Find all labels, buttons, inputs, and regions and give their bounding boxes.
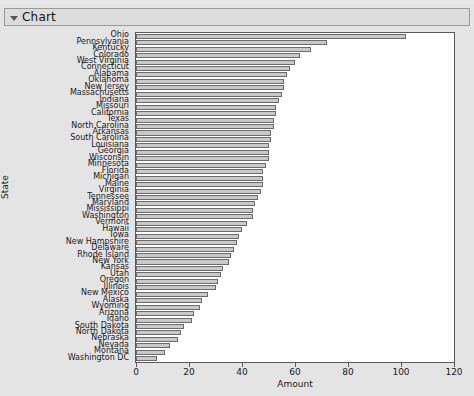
- bar-row: [136, 92, 454, 97]
- bar[interactable]: [136, 105, 276, 110]
- bar[interactable]: [136, 182, 263, 187]
- bar[interactable]: [136, 324, 184, 329]
- bar[interactable]: [136, 163, 266, 168]
- bar-row: [136, 292, 454, 297]
- y-axis-tick-label: Washington DC: [68, 354, 129, 362]
- bar[interactable]: [136, 47, 311, 52]
- chart-window-screen: Chart State OhioPennsylvaniaKentuckyColo…: [0, 0, 474, 396]
- bar[interactable]: [136, 285, 216, 290]
- bar-row: [136, 79, 454, 84]
- bar[interactable]: [136, 356, 157, 361]
- bar-row: [136, 285, 454, 290]
- bar[interactable]: [136, 240, 237, 245]
- bar-row: [136, 47, 454, 52]
- bar-row: [136, 34, 454, 39]
- bar-row: [136, 201, 454, 206]
- x-axis-tick-label: 0: [133, 367, 139, 377]
- bar[interactable]: [136, 259, 229, 264]
- bar-row: [136, 272, 454, 277]
- bar[interactable]: [136, 350, 165, 355]
- bar[interactable]: [136, 118, 274, 123]
- bar[interactable]: [136, 150, 269, 155]
- bar[interactable]: [136, 85, 284, 90]
- bar-row: [136, 124, 454, 129]
- bar-row: [136, 72, 454, 77]
- bar-row: [136, 350, 454, 355]
- bar[interactable]: [136, 130, 271, 135]
- bar-row: [136, 298, 454, 303]
- bar-row: [136, 176, 454, 181]
- bar-row: [136, 330, 454, 335]
- bar-row: [136, 111, 454, 116]
- bar[interactable]: [136, 34, 406, 39]
- bar[interactable]: [136, 330, 181, 335]
- bar[interactable]: [136, 337, 178, 342]
- bar[interactable]: [136, 124, 274, 129]
- bar[interactable]: [136, 292, 208, 297]
- bar-row: [136, 279, 454, 284]
- bar[interactable]: [136, 279, 218, 284]
- bar[interactable]: [136, 156, 269, 161]
- bar[interactable]: [136, 98, 279, 103]
- bar-row: [136, 247, 454, 252]
- bar-row: [136, 105, 454, 110]
- bar-row: [136, 214, 454, 219]
- bar[interactable]: [136, 247, 234, 252]
- bar[interactable]: [136, 234, 239, 239]
- bar[interactable]: [136, 60, 295, 65]
- bar-row: [136, 234, 454, 239]
- y-axis-title: State: [0, 175, 10, 199]
- bar-row: [136, 189, 454, 194]
- bar[interactable]: [136, 208, 253, 213]
- bar-row: [136, 240, 454, 245]
- bar[interactable]: [136, 311, 194, 316]
- triangle-down-icon[interactable]: [10, 16, 18, 21]
- bar[interactable]: [136, 201, 255, 206]
- bar[interactable]: [136, 195, 258, 200]
- bar-row: [136, 53, 454, 58]
- bar[interactable]: [136, 143, 269, 148]
- bar[interactable]: [136, 343, 170, 348]
- bar[interactable]: [136, 169, 263, 174]
- bar-row: [136, 195, 454, 200]
- bar[interactable]: [136, 305, 200, 310]
- bar-row: [136, 311, 454, 316]
- bar[interactable]: [136, 221, 247, 226]
- bar[interactable]: [136, 137, 271, 142]
- bar[interactable]: [136, 298, 202, 303]
- bar-row: [136, 118, 454, 123]
- bar-row: [136, 182, 454, 187]
- bar[interactable]: [136, 266, 223, 271]
- bar[interactable]: [136, 227, 242, 232]
- bar[interactable]: [136, 40, 327, 45]
- x-axis-tick-label: 60: [289, 367, 300, 377]
- x-axis-tick-label: 20: [183, 367, 194, 377]
- bar[interactable]: [136, 66, 290, 71]
- bar[interactable]: [136, 318, 192, 323]
- bar[interactable]: [136, 214, 253, 219]
- bar-row: [136, 156, 454, 161]
- bar[interactable]: [136, 53, 300, 58]
- x-axis-tick-label: 80: [342, 367, 353, 377]
- bar[interactable]: [136, 272, 221, 277]
- bar-row: [136, 318, 454, 323]
- chart-area: State OhioPennsylvaniaKentuckyColoradoWe…: [4, 27, 470, 396]
- bar-row: [136, 337, 454, 342]
- bar[interactable]: [136, 176, 263, 181]
- chart-panel: Chart State OhioPennsylvaniaKentuckyColo…: [0, 4, 474, 396]
- bar[interactable]: [136, 253, 231, 258]
- bar[interactable]: [136, 79, 284, 84]
- bar[interactable]: [136, 189, 261, 194]
- bar-row: [136, 253, 454, 258]
- bar[interactable]: [136, 111, 276, 116]
- panel-title-bar[interactable]: Chart: [4, 8, 470, 26]
- x-axis-tick-label: 100: [392, 367, 409, 377]
- x-axis: 020406080100120: [135, 363, 455, 373]
- bar-row: [136, 66, 454, 71]
- x-axis-tick-label: 40: [236, 367, 247, 377]
- y-axis-category-labels: OhioPennsylvaniaKentuckyColoradoWest Vir…: [24, 32, 132, 363]
- bar[interactable]: [136, 72, 287, 77]
- bar[interactable]: [136, 92, 282, 97]
- bar-row: [136, 163, 454, 168]
- bar-row: [136, 169, 454, 174]
